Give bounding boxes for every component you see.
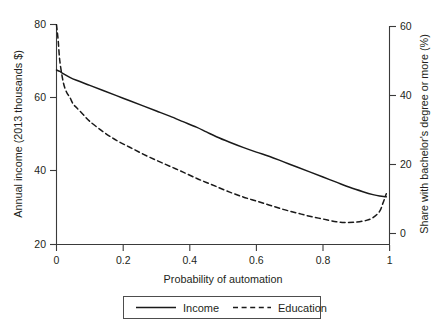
x-axis-title: Probability of automation (164, 273, 283, 285)
chart-legend: Income Education (124, 297, 327, 319)
x-tick-label-0-6: 0.6 (249, 254, 264, 266)
left-tick-label-80: 80 (34, 18, 46, 30)
x-tick-label-0-2: 0.2 (116, 254, 131, 266)
left-axis-ticks: 80 60 40 20 (34, 18, 56, 250)
left-tick-label-20: 20 (34, 238, 46, 250)
right-tick-label-0: 0 (400, 227, 406, 239)
left-tick-label-60: 60 (34, 91, 46, 103)
plot-series-group (57, 25, 387, 223)
x-tick-label-0-8: 0.8 (316, 254, 331, 266)
y-axis-title: Annual income (2013 thousands $) (12, 50, 24, 217)
x-tick-label-1: 1 (387, 254, 393, 266)
legend-label-education: Education (278, 302, 327, 314)
x-axis-ticks: 0 0.2 0.4 0.6 0.8 1 (54, 245, 393, 266)
left-tick-label-40: 40 (34, 164, 46, 176)
series-line-education (57, 25, 387, 223)
right-axis-ticks: 60 40 20 0 (390, 20, 412, 239)
right-tick-label-60: 60 (400, 20, 412, 32)
legend-label-income: Income (183, 302, 219, 314)
chart-figure: 80 60 40 20 60 40 20 0 0 0.2 0.4 (0, 0, 447, 330)
x-tick-label-0: 0 (54, 254, 60, 266)
y2-axis-title: Share with bachelor's degree or more (%) (418, 34, 430, 234)
right-tick-label-20: 20 (400, 158, 412, 170)
x-tick-label-0-4: 0.4 (182, 254, 197, 266)
right-tick-label-40: 40 (400, 89, 412, 101)
chart-canvas: 80 60 40 20 60 40 20 0 0 0.2 0.4 (0, 0, 447, 330)
